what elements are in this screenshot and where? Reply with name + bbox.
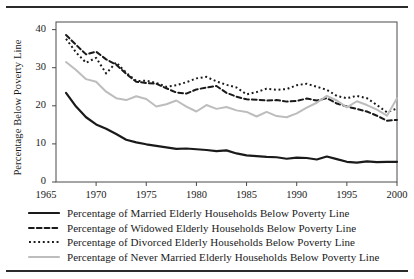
x-tick-label: 1985	[227, 189, 267, 200]
chart-canvas	[0, 10, 414, 210]
legend-line-swatch	[28, 207, 60, 219]
series-line-3	[66, 62, 397, 117]
series-line-2	[66, 39, 397, 113]
x-tick-label: 1980	[176, 189, 216, 200]
x-tick-label: 2000	[377, 189, 414, 200]
figure-container: Percentage Below Poverty Line 0102030401…	[0, 0, 414, 279]
legend-line-swatch	[28, 236, 60, 248]
bottom-divider-rule	[6, 270, 408, 272]
y-tick-label: 40	[22, 23, 46, 34]
legend-label: Percentage of Never Married Elderly Hous…	[67, 251, 379, 263]
x-tick-label: 1965	[26, 189, 66, 200]
y-tick-label: 20	[22, 99, 46, 110]
legend-item: Percentage of Widowed Elderly Households…	[0, 221, 414, 236]
y-tick-label: 10	[22, 137, 46, 148]
x-tick-label: 1995	[327, 189, 367, 200]
top-divider-rule	[6, 6, 408, 8]
x-tick-label: 1990	[277, 189, 317, 200]
series-line-0	[66, 93, 397, 163]
legend-label: Percentage of Divorced Elderly Household…	[67, 236, 355, 248]
legend-item: Percentage of Divorced Elderly Household…	[0, 235, 414, 250]
y-tick-label: 0	[22, 175, 46, 186]
plot-frame	[56, 22, 397, 182]
legend-item: Percentage of Never Married Elderly Hous…	[0, 250, 414, 265]
chart-legend: Percentage of Married Elderly Households…	[0, 206, 414, 264]
legend-line-swatch	[28, 251, 60, 263]
y-tick-label: 30	[22, 61, 46, 72]
x-tick-label: 1975	[126, 189, 166, 200]
legend-label: Percentage of Widowed Elderly Households…	[67, 222, 356, 234]
legend-line-swatch	[28, 222, 60, 234]
legend-item: Percentage of Married Elderly Households…	[0, 206, 414, 221]
legend-label: Percentage of Married Elderly Households…	[67, 207, 349, 219]
plot-area: Percentage Below Poverty Line 0102030401…	[0, 10, 414, 210]
x-tick-label: 1970	[76, 189, 116, 200]
